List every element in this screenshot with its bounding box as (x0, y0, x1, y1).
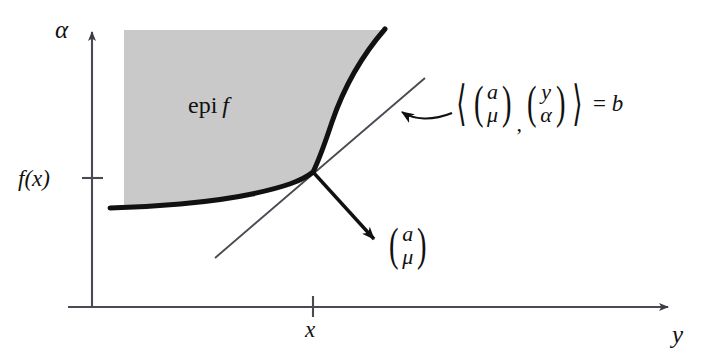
x-tick-label: x (305, 318, 315, 341)
fx-tick-label: f(x) (18, 167, 50, 190)
equation-vector-two: ( y α ) (524, 80, 568, 127)
equation-vector-two-top: y (541, 80, 551, 103)
left-paren-icon: ( (474, 85, 484, 121)
equation-vector-one: ( a μ ) (471, 80, 515, 127)
y-axis-label: y (672, 322, 683, 347)
alpha-axis-label: α (55, 17, 68, 42)
normal-vector-top: a (402, 222, 413, 245)
right-paren-icon: ) (556, 85, 566, 121)
right-paren-icon: ) (417, 227, 427, 263)
hyperplane-equation-label: ⟨ ( a μ ) , ( y α ) ⟩ = b (452, 80, 623, 127)
normal-vector-label: ( a μ ) (386, 222, 430, 269)
normal-vector-column: ( a μ ) (386, 222, 430, 269)
left-paren-icon: ( (527, 85, 537, 121)
equation-vector-one-top: a (487, 80, 498, 103)
normal-vector-arrow (313, 172, 374, 239)
equation-vector-two-bottom: α (540, 103, 552, 126)
epigraph-shaded-region (118, 24, 398, 216)
equation-separator: , (514, 113, 524, 135)
left-angle-bracket-icon: ⟨ (456, 85, 466, 122)
hyperplane-callout-arrow (402, 112, 452, 119)
right-angle-bracket-icon: ⟩ (572, 85, 582, 122)
epi-f-label: epif (188, 93, 229, 117)
epi-word: epi (188, 92, 217, 118)
equals-sign: = (593, 91, 606, 116)
b-variable: b (612, 91, 624, 116)
epigraph-diagram: α y f(x) x epif ( a μ ) ⟨ ( a μ ) (0, 0, 707, 360)
equation-right-hand-side: = b (587, 92, 623, 115)
diagram-canvas (0, 0, 707, 360)
equation-vector-one-components: a μ (486, 80, 499, 127)
right-paren-icon: ) (502, 85, 512, 121)
epi-function-symbol: f (222, 92, 229, 118)
inner-product-expression: ⟨ ( a μ ) , ( y α ) ⟩ = b (452, 80, 623, 127)
equation-vector-two-components: y α (539, 80, 553, 127)
equation-vector-one-bottom: μ (487, 103, 498, 126)
normal-vector-components: a μ (401, 222, 414, 269)
left-paren-icon: ( (389, 227, 399, 263)
normal-vector-bottom: μ (402, 245, 413, 268)
